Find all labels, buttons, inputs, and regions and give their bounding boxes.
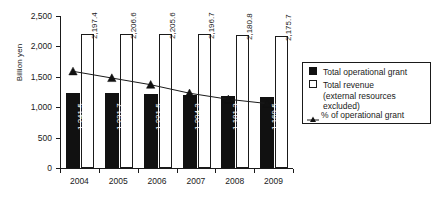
- bar-total-revenue: [275, 36, 288, 168]
- bar-value-label-total-revenue: 2,196.7: [208, 13, 216, 40]
- bar-value-label-total-revenue: 2,180.8: [246, 14, 254, 41]
- bar-total-revenue: [198, 34, 211, 168]
- x-tick-label-2009: 2009: [254, 177, 294, 186]
- bar-value-label-total-operational-grant: 1,204.3: [194, 103, 202, 130]
- x-tick-label-2005: 2005: [98, 177, 138, 186]
- triangle-line-marker-icon: [307, 110, 319, 118]
- legend-item-total-operational-grant: Total operational grant: [309, 67, 407, 78]
- bar-value-label-total-operational-grant: 1,181.3: [232, 103, 240, 130]
- bar-value-label-total-revenue: 2,197.4: [91, 13, 99, 40]
- x-tick-label-2008: 2008: [215, 177, 255, 186]
- bar-value-label-total-revenue: 2,206.6: [130, 12, 138, 39]
- bar-value-label-total-revenue: 2,175.7: [285, 14, 293, 41]
- percent-line-marker: [108, 74, 116, 82]
- bar-total-revenue: [236, 35, 249, 168]
- bar-total-revenue: [120, 34, 133, 168]
- y-tick-label: 0: [18, 164, 52, 173]
- bar-total-revenue: [81, 34, 94, 168]
- x-tick-mark: [60, 169, 61, 173]
- x-tick-mark: [99, 169, 100, 173]
- percent-line-marker: [69, 67, 77, 75]
- bar-value-label-total-operational-grant: 1,221.5: [155, 103, 163, 130]
- legend-label-percent-of-operational-grant: % of operational grant: [321, 110, 404, 121]
- bar-total-revenue: [159, 34, 172, 168]
- y-tick-label: 1,000: [18, 103, 52, 112]
- x-tick-mark: [215, 169, 216, 173]
- bar-value-label-total-operational-grant: 1,169.5: [271, 103, 279, 130]
- legend-label-total-revenue-line1: Total revenue: [323, 80, 396, 91]
- y-tick-label: 2,000: [18, 42, 52, 51]
- bar-value-label-total-operational-grant: 1,231.7: [116, 103, 124, 130]
- legend-item-total-revenue: Total revenue (external resources exclud…: [309, 80, 396, 112]
- x-tick-label-2006: 2006: [137, 177, 177, 186]
- bar-value-label-total-operational-grant: 1,241.5: [77, 103, 85, 130]
- legend-label-total-revenue-line2: (external resources: [323, 91, 396, 102]
- y-tick-label: 1,500: [18, 73, 52, 82]
- legend-label-total-revenue-block: Total revenue (external resources exclud…: [323, 80, 396, 112]
- chart-container: Billion yen 05001,0001,5002,0002,500 2,1…: [0, 0, 440, 203]
- bar-value-label-total-revenue: 2,205.6: [169, 12, 177, 39]
- legend-item-percent-of-operational-grant: % of operational grant: [307, 110, 404, 121]
- x-tick-label-2007: 2007: [176, 177, 216, 186]
- hollow-square-icon: [309, 80, 317, 88]
- y-axis-line: [60, 16, 61, 169]
- y-tick-label: 2,500: [18, 12, 52, 21]
- x-tick-mark: [177, 169, 178, 173]
- y-axis-title: Billion yen: [15, 8, 24, 118]
- x-tick-mark: [293, 169, 294, 173]
- filled-square-icon: [309, 67, 317, 75]
- legend-label-total-operational-grant: Total operational grant: [323, 67, 407, 78]
- x-tick-label-2004: 2004: [59, 177, 99, 186]
- x-tick-mark: [254, 169, 255, 173]
- percent-line-marker: [146, 81, 154, 89]
- x-tick-mark: [138, 169, 139, 173]
- y-tick-label: 500: [18, 134, 52, 143]
